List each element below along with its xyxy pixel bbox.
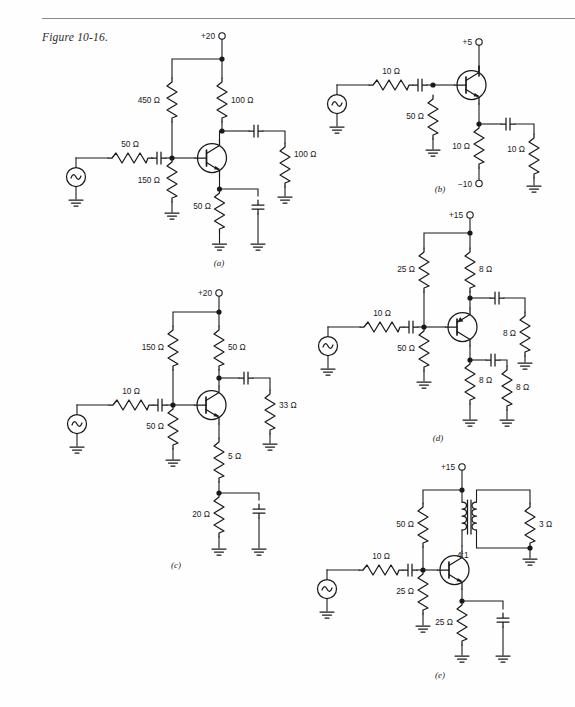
resistor-50-bias-d-label: 50 Ω xyxy=(397,343,415,353)
resistor-50-bias-e xyxy=(418,503,428,547)
transistor-npn-c xyxy=(195,386,227,424)
resistor-10-emitter-b xyxy=(474,124,484,168)
resistor-450-a xyxy=(167,78,177,122)
transistor-npn-b xyxy=(455,66,487,104)
resistor-150-c-label: 150 Ω xyxy=(142,342,164,352)
resistor-25-d-label: 25 Ω xyxy=(397,264,415,274)
resistor-50-source-a-label: 50 Ω xyxy=(121,139,139,149)
circuit-a: +20 450 Ω 150 Ω 100 Ω xyxy=(67,31,317,268)
resistor-50-emitter-a-label: 50 Ω xyxy=(193,201,211,211)
resistor-10-emitter-b-label: 10 Ω xyxy=(452,141,470,151)
resistor-50-bias-c-label: 50 Ω xyxy=(146,421,164,431)
resistor-100-collector-a-label: 100 Ω xyxy=(231,95,253,105)
ground-symbol xyxy=(165,213,179,219)
capacitor-bypass-e xyxy=(497,613,509,627)
resistor-3-load-e xyxy=(525,503,535,547)
resistor-50-bias-d xyxy=(419,327,429,371)
ground-symbol xyxy=(463,420,477,426)
resistor-50-collector-c xyxy=(214,326,224,370)
capacitor-bypass-a xyxy=(252,200,264,214)
resistor-8-emitter-d xyxy=(465,360,475,404)
resistor-50-emitter-a xyxy=(215,189,225,233)
ground-symbol xyxy=(416,626,430,632)
circuit-diagram-canvas: +20 450 Ω 150 Ω 100 Ω xyxy=(0,0,575,707)
resistor-10-source-b-label: 10 Ω xyxy=(382,66,400,76)
resistor-100-load-a-label: 100 Ω xyxy=(294,149,316,159)
resistor-100-collector-a xyxy=(217,78,227,122)
ground-symbol xyxy=(166,460,180,466)
ground-symbol xyxy=(263,444,277,450)
capacitor-output-b xyxy=(501,118,515,130)
resistor-25-bias-e-label: 25 Ω xyxy=(396,586,414,596)
resistor-50-base-b xyxy=(428,95,438,139)
circuit-e: +15 50 Ω 25 Ω 4:1 xyxy=(318,462,553,680)
resistor-10-source-e-label: 10 Ω xyxy=(372,551,390,561)
resistor-150-a xyxy=(167,158,177,202)
resistor-5-emitter-c xyxy=(214,438,224,482)
resistor-10-source-d-label: 10 Ω xyxy=(373,308,391,318)
resistor-20-emitter-c-label: 20 Ω xyxy=(192,509,210,519)
supply-label-b: +5 xyxy=(463,37,473,47)
ground-symbol xyxy=(251,244,265,250)
ground-symbol xyxy=(252,549,266,555)
capacitor-input-e xyxy=(403,564,417,576)
supply-terminal-d xyxy=(467,212,473,218)
resistor-10-load-b-label: 10 Ω xyxy=(507,144,525,154)
ac-source-a xyxy=(67,168,86,187)
supply-label-a: +20 xyxy=(201,31,215,41)
ground-symbol xyxy=(500,420,514,426)
resistor-8-emitter-load-d xyxy=(502,366,512,410)
capacitor-input-c xyxy=(153,399,167,411)
resistor-100-load-a xyxy=(280,143,290,187)
resistor-10-load-b xyxy=(529,134,539,178)
resistor-50-bias-e-label: 50 Ω xyxy=(396,519,414,529)
ground-symbol xyxy=(527,186,541,192)
capacitor-output-a xyxy=(249,125,263,137)
resistor-25-d xyxy=(419,248,429,292)
ground-symbol xyxy=(518,363,532,369)
ground-symbol xyxy=(496,656,510,662)
resistor-3-load-e-label: 3 Ω xyxy=(539,519,552,529)
ground-symbol xyxy=(321,369,335,375)
supply-label-c: +20 xyxy=(198,288,212,298)
resistor-33-load-c xyxy=(265,390,275,434)
resistor-8-collector-d-label: 8 Ω xyxy=(479,264,492,274)
capacitor-collector-d xyxy=(490,292,504,304)
ground-symbol xyxy=(330,127,344,133)
resistor-150-a-label: 150 Ω xyxy=(138,175,160,185)
resistor-150-c xyxy=(168,326,178,370)
resistor-25-emitter-e-label: 25 Ω xyxy=(435,617,453,627)
ac-source-e xyxy=(318,580,337,599)
resistor-8-emitter-d-label: 8 Ω xyxy=(479,375,492,385)
ground-symbol xyxy=(212,549,226,555)
ground-symbol xyxy=(69,200,83,206)
resistor-50-source-a xyxy=(108,153,152,163)
capacitor-bypass-c xyxy=(253,504,265,518)
ac-source-b xyxy=(328,95,347,114)
supply-label-d: +15 xyxy=(449,210,463,220)
capacitor-input-a xyxy=(152,152,166,164)
transformer-secondary-e xyxy=(472,502,477,530)
transistor-npn-a xyxy=(195,139,227,177)
resistor-10-source-d xyxy=(360,322,404,332)
resistor-25-emitter-e xyxy=(457,601,467,645)
resistor-10-source-c xyxy=(109,400,153,410)
resistor-450-a-label: 450 Ω xyxy=(138,95,160,105)
ground-symbol xyxy=(213,244,227,250)
resistor-20-emitter-c xyxy=(214,493,224,537)
ground-symbol xyxy=(523,559,537,565)
resistor-8-collector-d xyxy=(465,248,475,292)
ground-symbol xyxy=(455,656,469,662)
subfigure-label-e: (e) xyxy=(435,670,445,680)
resistor-25-bias-e xyxy=(418,570,428,614)
supply-terminal-c xyxy=(216,290,222,296)
supply-terminal-a xyxy=(219,33,225,39)
capacitor-emitter-d xyxy=(486,354,500,366)
subfigure-label-b: (b) xyxy=(435,184,446,194)
resistor-50-base-b-label: 50 Ω xyxy=(406,111,424,121)
resistor-10-source-b xyxy=(369,80,413,90)
resistor-5-emitter-c-label: 5 Ω xyxy=(228,451,241,461)
resistor-50-bias-c xyxy=(168,405,178,449)
resistor-8-emitter-load-d-label: 8 Ω xyxy=(516,382,529,392)
figure-page: Figure 10-16. xyxy=(0,0,575,707)
